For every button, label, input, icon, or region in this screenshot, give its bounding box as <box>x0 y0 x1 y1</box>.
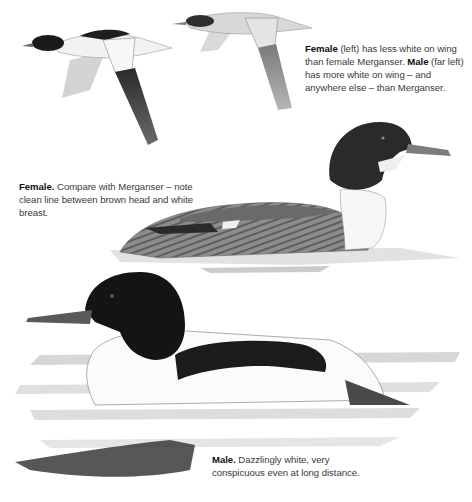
male-swimming-illustration <box>15 272 460 477</box>
field-guide-page: Female (left) has less white on wing tha… <box>0 0 472 502</box>
caption-flight-lead-male: Male <box>407 56 428 67</box>
female-in-flight-illustration <box>172 13 312 110</box>
caption-flight-lead-female: Female <box>305 43 338 54</box>
caption-male-lead: Male. <box>212 454 236 465</box>
caption-male: Male. Dazzlingly white, very conspicuous… <box>212 453 362 479</box>
caption-female: Female. Compare with Merganser – note cl… <box>19 180 199 219</box>
caption-flight: Female (left) has less white on wing tha… <box>305 42 470 94</box>
caption-female-lead: Female. <box>19 181 54 192</box>
male-in-flight-illustration <box>22 30 172 145</box>
